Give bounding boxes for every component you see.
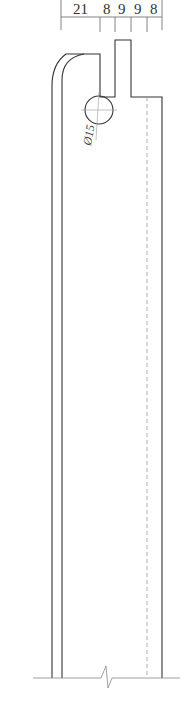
- dim-2: 8: [103, 1, 111, 17]
- dim-1: 21: [73, 1, 88, 17]
- technical-drawing: 21 8 9 9 8 Ø15: [0, 0, 193, 715]
- dim-4: 9: [134, 1, 142, 17]
- profile-outline: [52, 40, 162, 678]
- dim-3: 9: [118, 1, 126, 17]
- hole-label: Ø15: [80, 124, 98, 148]
- break-line: [33, 666, 180, 688]
- dim-5: 8: [150, 1, 158, 17]
